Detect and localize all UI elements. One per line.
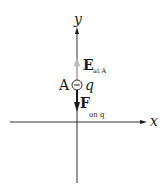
field-vector-e — [74, 57, 80, 80]
y-axis-arrowhead-icon — [75, 27, 79, 34]
field-vector-subscript: at A — [93, 67, 107, 75]
charge-label: q — [85, 77, 94, 93]
force-vector-subscript: on q — [89, 111, 105, 119]
force-vector-symbol: F — [80, 95, 90, 111]
x-axis-arrowhead-icon — [140, 120, 147, 124]
x-axis — [10, 120, 147, 124]
y-axis-label: y — [73, 11, 83, 27]
negative-charge — [72, 80, 82, 90]
field-arrowhead-icon — [74, 57, 80, 66]
electric-field-diagram: y x E at A A q F on q — [0, 0, 165, 193]
point-label: A — [58, 77, 70, 93]
x-axis-label: x — [150, 113, 158, 129]
